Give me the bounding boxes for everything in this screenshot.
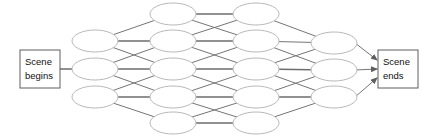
scene-node[interactable] <box>72 58 118 80</box>
scene-node[interactable] <box>72 30 118 52</box>
edge-line <box>279 42 311 43</box>
scene-node[interactable] <box>150 3 196 25</box>
scene-node[interactable] <box>311 86 357 108</box>
edge-line <box>275 103 315 116</box>
scene-node[interactable] <box>233 30 279 52</box>
scene-node[interactable] <box>233 86 279 108</box>
scene-node[interactable] <box>150 86 196 108</box>
end-arrow-line <box>355 43 377 60</box>
scene-node[interactable] <box>150 58 196 80</box>
start-terminal-label-line2: begins <box>25 70 53 81</box>
scene-node[interactable] <box>72 86 118 108</box>
end-terminal-label-line2: ends <box>383 70 404 81</box>
start-terminal-label-line1: Scene <box>25 56 52 67</box>
edge-line <box>114 20 155 34</box>
scene-node[interactable] <box>233 3 279 25</box>
scene-node[interactable] <box>311 59 357 81</box>
edge-line <box>274 21 316 36</box>
scene-node[interactable] <box>233 58 279 80</box>
end-arrow-line <box>355 69 377 70</box>
diagram-canvas: Scene begins Scene ends <box>0 0 425 138</box>
scene-network-diagram: Scene begins Scene ends <box>0 0 425 138</box>
scene-node[interactable] <box>150 112 196 134</box>
end-terminal-label-line1: Scene <box>383 56 410 67</box>
scene-node[interactable] <box>311 32 357 54</box>
edge-line <box>114 103 154 116</box>
end-arrow-line <box>355 78 377 97</box>
scene-node[interactable] <box>233 112 279 134</box>
scene-node[interactable] <box>150 30 196 52</box>
